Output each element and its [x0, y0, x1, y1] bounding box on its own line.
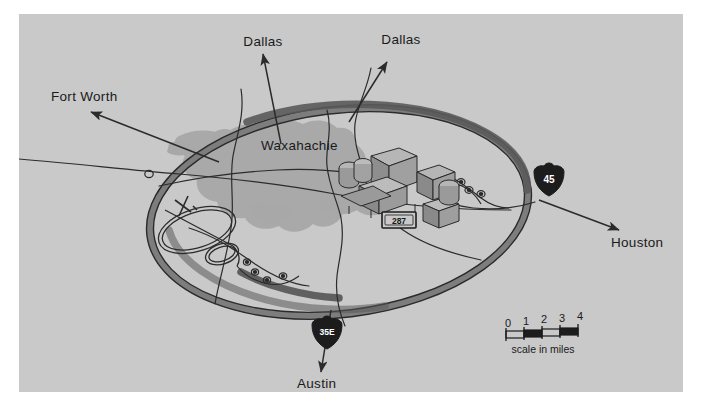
label-houston: Houston	[611, 235, 663, 250]
label-waxahachie: Waxahachie	[261, 138, 338, 153]
shield-287-label: 287	[392, 216, 406, 226]
shield-us-287[interactable]: 287	[382, 212, 416, 228]
scale-caption: scale in miles	[511, 343, 574, 355]
map-canvas: 45 35E 287 Dallas Dallas Fort Worth Waxa…	[19, 14, 683, 392]
scale-tick-3: 3	[559, 312, 565, 324]
shield-35e-label: 35E	[319, 327, 334, 337]
label-fort-worth: Fort Worth	[51, 89, 118, 104]
scale-tick-0: 0	[505, 317, 511, 329]
label-dallas-north: Dallas	[243, 34, 282, 49]
shield-45-label: 45	[543, 174, 555, 185]
screenshot-root: 45 35E 287 Dallas Dallas Fort Worth Waxa…	[0, 0, 702, 406]
label-austin: Austin	[297, 376, 336, 391]
scale-tick-4: 4	[577, 310, 583, 322]
label-dallas-northeast: Dallas	[381, 32, 420, 47]
scale-tick-2: 2	[541, 313, 547, 325]
map-graphic: 45 35E 287 Dallas Dallas Fort Worth Waxa…	[19, 14, 683, 392]
scale-tick-1: 1	[523, 315, 529, 327]
